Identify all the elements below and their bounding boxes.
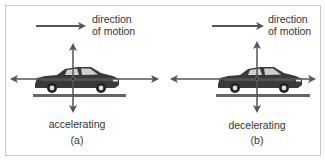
direction-label-line1: direction (92, 14, 135, 26)
road (216, 94, 310, 97)
center-point (255, 77, 259, 81)
panel-label-b: (b) (251, 134, 264, 146)
center-point (71, 77, 75, 81)
state-label-b: decelerating (228, 119, 285, 131)
car-icon (35, 67, 119, 93)
panel-a (12, 26, 157, 111)
direction-label-line2: of motion (92, 26, 135, 38)
panel-label-a: (a) (71, 134, 84, 146)
panel-b (172, 26, 314, 111)
car-icon (218, 67, 302, 93)
direction-label-line1: direction (268, 14, 311, 26)
road (33, 94, 126, 97)
direction-label-line2: of motion (268, 26, 311, 38)
direction-label-b: direction of motion (268, 14, 311, 37)
state-label-a: accelerating (49, 118, 106, 130)
direction-label-a: direction of motion (92, 14, 135, 37)
